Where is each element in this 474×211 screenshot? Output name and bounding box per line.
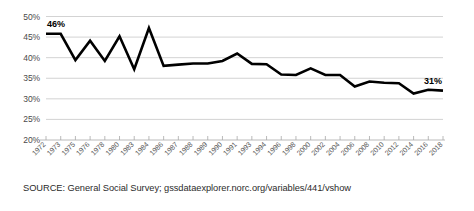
gridlines-group [46, 17, 443, 120]
x-axis-tick-label: 1989 [192, 140, 209, 157]
x-axis-tick-label: 1973 [45, 140, 62, 157]
x-axis-tick-label: 2014 [398, 140, 415, 157]
x-axis-tick-label: 2002 [309, 140, 326, 157]
x-axis-tick-label: 1990 [206, 140, 223, 157]
x-axis-tick-label: 1980 [104, 140, 121, 157]
x-axis-tick-label: 1993 [236, 140, 253, 157]
x-axis-tick-label: 1983 [118, 140, 135, 157]
x-axis-tick-label: 1996 [265, 140, 282, 157]
x-axis-tick-label: 2010 [368, 140, 385, 157]
x-axis-tick-label: 1976 [74, 140, 91, 157]
chart-plot-area: 50%45%40%35%30%25%20% 197219731975197619… [0, 0, 474, 211]
data-point-annotations: 46%31% [47, 19, 442, 86]
data-point-label: 46% [47, 19, 65, 29]
data-series-line [46, 28, 443, 93]
x-axis-tick-label: 1986 [148, 140, 165, 157]
x-axis-tick-label: 1998 [280, 140, 297, 157]
x-axis-tick-label: 1984 [133, 140, 150, 157]
y-axis-tick-label: 35% [23, 73, 40, 83]
y-axis-tick-labels: 50%45%40%35%30%25%20% [23, 12, 40, 146]
x-axis-tick-labels: 1972197319751976197819801983198419861987… [30, 140, 444, 157]
series-polyline [46, 28, 443, 93]
y-axis-tick-label: 25% [23, 114, 40, 124]
y-axis-tick-label: 40% [23, 53, 40, 63]
x-axis-tick-label: 2018 [427, 140, 444, 157]
x-axis-tick-label: 1975 [59, 140, 76, 157]
x-axis-tick-label: 2000 [295, 140, 312, 157]
y-axis-tick-label: 30% [23, 94, 40, 104]
y-axis-tick-label: 50% [23, 12, 40, 22]
source-note: SOURCE: General Social Survey; gssdataex… [23, 183, 351, 193]
y-axis-tick-label: 45% [23, 32, 40, 42]
x-axis-tick-label: 2004 [324, 140, 341, 157]
x-axis-tick-label: 1988 [177, 140, 194, 157]
data-point-label: 31% [424, 76, 442, 86]
x-axis-tick-label: 2016 [412, 140, 429, 157]
x-axis-tick-label: 1991 [221, 140, 238, 157]
x-axis-tick-label: 2008 [354, 140, 371, 157]
x-axis-tick-label: 2006 [339, 140, 356, 157]
x-axis-tick-label: 1994 [251, 140, 268, 157]
x-axis-tick-label: 2012 [383, 140, 400, 157]
x-axis-tick-label: 1987 [162, 140, 179, 157]
line-chart-figure: 50%45%40%35%30%25%20% 197219731975197619… [0, 0, 474, 211]
x-axis-tick-label: 1978 [89, 140, 106, 157]
x-axis [40, 136, 445, 140]
